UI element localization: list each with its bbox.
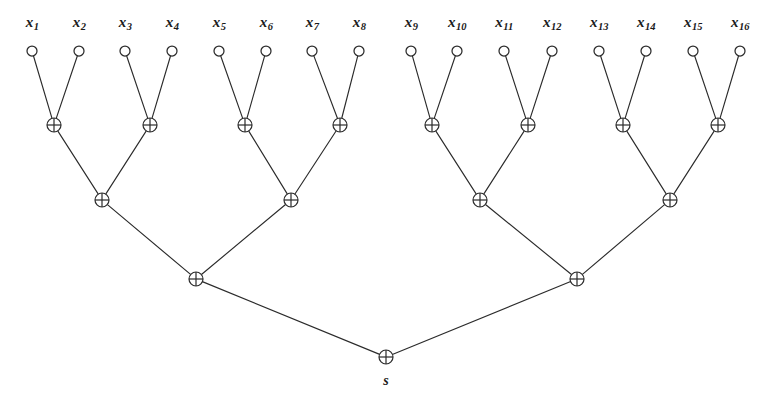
xor-tree-diagram <box>0 0 775 419</box>
input-label-subscript: 10 <box>456 21 467 32</box>
edge-input-to-gate <box>530 56 550 118</box>
input-node-x2[interactable] <box>74 46 84 56</box>
input-label-subscript: 12 <box>551 21 562 32</box>
edge-gate-to-gate <box>295 131 336 193</box>
input-label-base: x <box>731 14 739 30</box>
edge-gate-to-gate <box>436 131 476 193</box>
input-node-x14[interactable] <box>641 46 651 56</box>
input-label-subscript: 2 <box>81 21 86 32</box>
input-label-base: x <box>166 14 174 30</box>
input-label-x12: x12 <box>543 15 561 30</box>
input-node-x6[interactable] <box>261 46 271 56</box>
input-label-base: x <box>543 14 551 30</box>
input-label-x8: x8 <box>353 15 366 30</box>
input-node-x12[interactable] <box>547 46 557 56</box>
input-label-subscript: 1 <box>34 21 39 32</box>
figure-canvas: x1x2x3x4x5x6x7x8x9x10x11x12x13x14x15x16 … <box>0 0 775 419</box>
input-node-x16[interactable] <box>735 46 745 56</box>
input-label-x1: x1 <box>26 15 39 30</box>
xor-gate-3-1[interactable] <box>189 272 203 286</box>
input-node-x10[interactable] <box>452 46 462 56</box>
output-label-s: s <box>383 374 388 388</box>
xor-gate-2-2[interactable] <box>284 193 298 207</box>
edge-gate-to-gate <box>106 131 146 193</box>
input-label-x5: x5 <box>213 15 226 30</box>
xor-gate-1-7[interactable] <box>616 118 630 132</box>
edge-input-to-gate <box>601 56 621 118</box>
input-node-x11[interactable] <box>499 46 509 56</box>
input-label-base: x <box>637 14 645 30</box>
input-label-base: x <box>684 14 692 30</box>
edge-input-to-gate <box>152 56 170 118</box>
edge-gate-to-gate <box>484 131 524 193</box>
input-label-base: x <box>306 14 314 30</box>
input-label-base: x <box>26 14 34 30</box>
input-label-x11: x11 <box>495 15 512 30</box>
input-label-base: x <box>353 14 361 30</box>
input-label-subscript: 3 <box>127 21 132 32</box>
input-label-subscript: 16 <box>739 21 750 32</box>
xor-gate-2-3[interactable] <box>473 193 487 207</box>
input-node-x1[interactable] <box>27 46 37 56</box>
input-label-subscript: 15 <box>692 21 703 32</box>
edge-input-to-gate <box>434 56 455 118</box>
edge-input-to-gate <box>314 56 337 118</box>
input-label-x14: x14 <box>637 15 655 30</box>
input-label-base: x <box>590 14 598 30</box>
input-label-base: x <box>213 14 221 30</box>
xor-gate-1-6[interactable] <box>521 118 535 132</box>
input-node-x13[interactable] <box>594 46 604 56</box>
edge-input-to-gate <box>506 56 526 118</box>
input-node-x3[interactable] <box>120 46 130 56</box>
input-label-base: x <box>495 14 503 30</box>
input-label-x4: x4 <box>166 15 179 30</box>
edge-gate-to-gate <box>249 131 287 193</box>
xor-gate-1-3[interactable] <box>238 118 252 132</box>
edge-gate-to-gate <box>58 131 98 193</box>
edge-input-to-gate <box>34 56 52 118</box>
input-node-x15[interactable] <box>688 46 698 56</box>
edge-input-to-gate <box>127 56 148 118</box>
xor-gate-3-2[interactable] <box>570 272 584 286</box>
xor-gate-1-2[interactable] <box>143 118 157 132</box>
edge-gate-to-gate <box>108 205 191 274</box>
input-label-subscript: 13 <box>598 21 609 32</box>
xor-gates-group <box>47 118 725 364</box>
xor-gate-1-8[interactable] <box>711 118 725 132</box>
xor-gate-1-5[interactable] <box>425 118 439 132</box>
input-label-x13: x13 <box>590 15 608 30</box>
input-label-subscript: 7 <box>314 21 319 32</box>
edge-gate-to-gate <box>203 282 379 354</box>
edge-gate-to-gate <box>674 131 714 193</box>
input-node-x4[interactable] <box>167 46 177 56</box>
input-label-subscript: 11 <box>503 21 513 32</box>
edge-gate-to-gate <box>202 205 285 274</box>
input-label-x7: x7 <box>306 15 319 30</box>
edge-input-to-gate <box>413 56 430 117</box>
edge-gate-to-gate <box>627 131 666 193</box>
xor-gate-1-4[interactable] <box>333 118 347 132</box>
input-label-subscript: 9 <box>413 21 418 32</box>
xor-gate-4-1[interactable] <box>379 350 393 364</box>
edge-input-to-gate <box>695 56 716 118</box>
input-label-base: x <box>260 14 268 30</box>
input-node-x5[interactable] <box>214 46 224 56</box>
xor-gate-1-1[interactable] <box>47 118 61 132</box>
input-label-subscript: 14 <box>645 21 656 32</box>
input-node-x8[interactable] <box>354 46 364 56</box>
input-label-x9: x9 <box>405 15 418 30</box>
edge-input-to-gate <box>342 56 358 117</box>
input-label-x3: x3 <box>119 15 132 30</box>
input-label-x10: x10 <box>448 15 466 30</box>
input-node-x7[interactable] <box>307 46 317 56</box>
input-label-x15: x15 <box>684 15 702 30</box>
edges-group <box>34 56 739 354</box>
input-label-x2: x2 <box>73 15 86 30</box>
edge-gate-to-gate <box>583 205 665 274</box>
xor-gate-2-4[interactable] <box>663 193 677 207</box>
input-node-x9[interactable] <box>406 46 416 56</box>
input-label-base: x <box>405 14 413 30</box>
input-label-x16: x16 <box>731 15 749 30</box>
input-nodes-group <box>27 46 745 56</box>
xor-gate-2-1[interactable] <box>95 193 109 207</box>
